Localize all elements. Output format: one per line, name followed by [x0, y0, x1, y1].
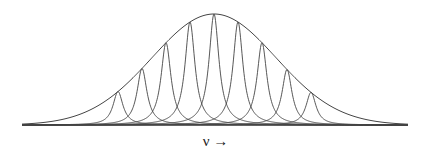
- lorentzian-peak: [22, 22, 408, 125]
- frequency-arrow-label: ν →: [203, 133, 229, 150]
- lorentzian-peak: [22, 22, 408, 125]
- lorentzian-peak: [22, 68, 408, 125]
- x-axis-label: ν →: [0, 133, 431, 150]
- lorentzian-peak: [22, 43, 408, 125]
- lorentzian-peak: [22, 92, 408, 125]
- gaussian-envelope: [22, 14, 408, 124]
- lorentzian-peaks: [22, 14, 408, 125]
- lorentzian-peak: [22, 43, 408, 125]
- lorentzian-peak: [22, 92, 408, 125]
- lorentzian-peak: [22, 70, 408, 125]
- lorentzian-peak: [22, 14, 408, 125]
